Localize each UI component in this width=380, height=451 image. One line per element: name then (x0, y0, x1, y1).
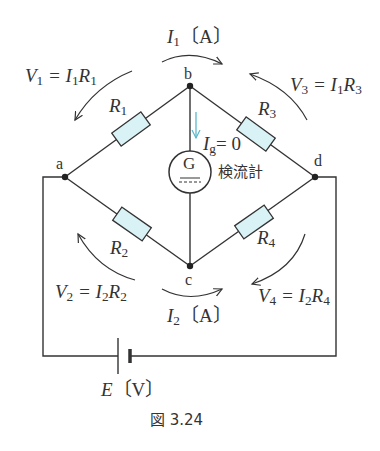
v2-label: V2 = I2R2 (55, 282, 127, 304)
i2-arrow-icon (162, 289, 222, 297)
node-c-dot (187, 263, 193, 269)
r3-label: R3 (258, 99, 276, 121)
resistor-r3 (237, 117, 276, 151)
r4-label: R4 (257, 228, 275, 250)
node-d-label: d (314, 153, 322, 169)
resistor-r2 (113, 207, 152, 241)
node-a-dot (62, 174, 68, 180)
r2-label: R2 (110, 238, 128, 260)
v1-label: V1 = I1R1 (25, 66, 97, 88)
node-b-label: b (184, 66, 192, 82)
battery-icon (118, 338, 130, 374)
i1-arrow-icon (162, 55, 222, 64)
galvanometer-symbol: G (183, 155, 195, 172)
node-b-dot (187, 83, 193, 89)
ig-label: Ig= 0 (203, 134, 241, 156)
galvanometer-label: 検流計 (218, 165, 263, 180)
source-label: E〔V〕 (101, 380, 164, 399)
i2-label: I2〔A〕 (167, 306, 232, 328)
node-c-label: c (185, 272, 192, 288)
i1-label: I1〔A〕 (167, 27, 232, 49)
r1-label: R1 (109, 96, 127, 118)
node-a-label: a (56, 156, 63, 172)
v4-label: V4 = I2R4 (258, 286, 330, 308)
figure-caption: 図 3.24 (150, 413, 203, 428)
v3-label: V3 = I1R3 (290, 75, 362, 97)
node-d-dot (312, 174, 318, 180)
